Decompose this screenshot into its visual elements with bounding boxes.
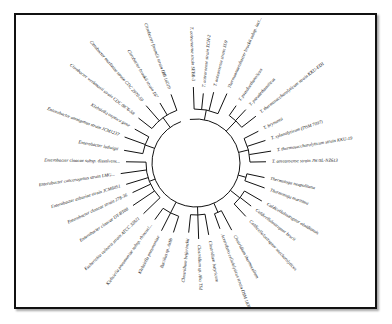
root-arc-2 — [190, 119, 240, 163]
leaf-label: T. aotearoense strain JW/SL-NZ613 — [272, 158, 339, 164]
leaf-branch — [247, 174, 265, 178]
leaf-label: Caldicellulosiruptor saccharolyticus — [248, 219, 298, 272]
leaf-label: Enterobacter cancerogenus strain LMG... — [37, 172, 115, 188]
leaf-branch — [247, 140, 265, 146]
clade-stem-9 — [226, 121, 236, 131]
leaf-branch — [234, 204, 246, 216]
leaf-branch — [209, 92, 214, 110]
leaf-branch — [244, 131, 258, 138]
leaf-branch — [143, 198, 160, 214]
clade-stem-7 — [163, 118, 170, 128]
tree-branches — [121, 87, 271, 239]
leaf-branch — [240, 197, 251, 206]
leaf-branch — [125, 137, 146, 145]
leaf-branch — [161, 213, 170, 231]
leaf-branch — [242, 116, 256, 127]
leaf-branch — [133, 191, 155, 206]
leaf-branch — [135, 129, 149, 137]
leaf-branch — [171, 94, 177, 110]
leaf-label: T. thermosaccharolyticum strain KKU-19 — [277, 135, 354, 152]
leaf-label: Citrobacter murliniae strain CDC 2970-59 — [89, 39, 145, 103]
leaf-label: Enterobacter ludwigii — [77, 139, 119, 151]
leaf-branch — [121, 170, 147, 174]
leaf-label: Clostridium sp. Aha TSd — [197, 245, 204, 291]
leaf-branch — [214, 214, 219, 229]
phylogenetic-tree: Thermotoga neapolitanaThermotoga maritim… — [0, 0, 392, 324]
leaf-label: T. aotearoense strain XCH-2 — [201, 34, 212, 88]
leaf-branch — [244, 191, 261, 201]
clade-stem-6 — [145, 145, 154, 148]
leaf-branch — [245, 181, 265, 188]
clade-stem-5 — [149, 179, 155, 181]
clade-stem-10 — [239, 150, 249, 152]
root-arc — [152, 122, 240, 207]
leaf-branch — [236, 110, 246, 121]
leaf-label: Enterobacter asburiae strain JCM6051 — [49, 183, 121, 209]
leaf-label: Enterobacter cloacae subsp. dissolvens..… — [43, 157, 120, 163]
leaf-label: Caldicellulosiruptor bescii — [255, 207, 298, 242]
leaf-branch — [126, 178, 148, 185]
leaf-branch — [133, 184, 151, 192]
leaf-branch — [198, 215, 199, 239]
leaf-branch — [221, 211, 231, 230]
leaf-label: Bacillus sp. Ashb — [159, 237, 174, 269]
leaf-label: Clostridium beijerinckii — [181, 238, 191, 283]
leaf-label: Escherichia vulneris strain ATCC 33821 — [83, 216, 141, 272]
clade-stem-8 — [204, 110, 206, 120]
leaf-branch — [189, 215, 191, 233]
leaf-branch — [173, 216, 178, 232]
leaf-branch — [138, 118, 151, 128]
leaf-branch — [202, 93, 204, 109]
leaf-branch — [218, 94, 227, 114]
leaf-branch — [146, 106, 159, 121]
leaf-branch — [124, 150, 143, 153]
leaf-label: T. aotearoense strain SL9 — [212, 39, 228, 86]
leaf-label: Acetivibrio cellulolyticus strain DSM 18… — [220, 232, 252, 309]
leaf-label: Clostridium butyricum — [208, 240, 220, 283]
leaf-branch — [249, 151, 271, 154]
leaf-label: T. aotearoense strain SEBR-3 — [189, 27, 196, 82]
clade-stem-4 — [171, 202, 176, 213]
clade-stem-1 — [230, 190, 239, 197]
leaf-label: Caldicellulosiruptor obsidiansis — [266, 201, 320, 235]
tree-leaf-labels: Thermotoga neapolitanaThermotoga maritim… — [37, 16, 353, 309]
clade-stem-2 — [214, 203, 218, 212]
leaf-branch — [155, 208, 163, 219]
leaf-label: Thermotoga maritima — [270, 187, 310, 206]
leaf-branch — [205, 214, 209, 235]
leaf-label: Enterobacter amnigenus strain JCM1237 — [46, 106, 121, 137]
leaf-branch — [229, 106, 236, 116]
leaf-branch — [160, 103, 167, 115]
leaf-label: T. brynantii — [262, 116, 284, 130]
leaf-branch — [193, 87, 194, 109]
clade-stem-0 — [238, 175, 246, 177]
